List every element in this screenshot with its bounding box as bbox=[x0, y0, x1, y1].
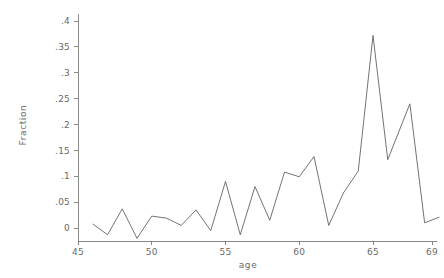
y-axis-title: Fraction bbox=[18, 105, 28, 146]
x-axis-tick-group: 455055606569 bbox=[72, 241, 438, 257]
y-tick-label: .2 bbox=[61, 120, 70, 130]
y-tick-label: .4 bbox=[61, 16, 70, 26]
x-tick-label: 45 bbox=[72, 247, 84, 257]
x-tick-label: 65 bbox=[367, 247, 379, 257]
chart-container: 0.05.1.15.2.25.3.35.4 455055606569 age F… bbox=[0, 0, 444, 278]
y-tick-label: .05 bbox=[55, 197, 70, 207]
x-tick-label: 50 bbox=[146, 247, 158, 257]
data-series-line bbox=[93, 35, 440, 238]
y-tick-label: .3 bbox=[61, 68, 70, 78]
y-axis-tick-group: 0.05.1.15.2.25.3.35.4 bbox=[55, 16, 78, 233]
line-chart-plot: 0.05.1.15.2.25.3.35.4 455055606569 age F… bbox=[0, 0, 444, 278]
x-tick-label: 55 bbox=[220, 247, 232, 257]
y-tick-label: 0 bbox=[64, 223, 70, 233]
y-tick-label: .1 bbox=[61, 171, 70, 181]
y-tick-label: .35 bbox=[55, 42, 70, 52]
y-tick-label: .25 bbox=[55, 94, 70, 104]
x-tick-label: 69 bbox=[426, 247, 438, 257]
x-axis-title: age bbox=[239, 260, 258, 270]
x-tick-label: 60 bbox=[293, 247, 305, 257]
y-tick-label: .15 bbox=[55, 146, 70, 156]
